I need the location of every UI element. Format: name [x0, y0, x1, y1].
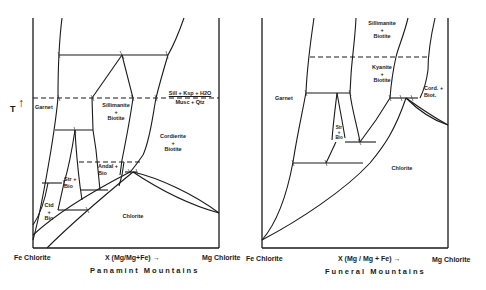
field-label-cord-biot: Cord. + Biot.: [424, 85, 454, 98]
garnet-boundary: [262, 18, 314, 240]
field-label-sill-bio: Sillimanite + Biotite: [358, 20, 406, 40]
chlorite-lens-lower: [133, 172, 219, 213]
field-label-chlorite: Chlorite: [382, 165, 422, 172]
up-arrow-icon: ↑: [18, 96, 24, 110]
funeral-diagram: [262, 18, 448, 248]
field-label-garnet: Garnet: [35, 104, 53, 111]
panel-title-panamint: Panamint Mountains: [90, 266, 199, 275]
reaction-label-products: Sill + Ksp + H2O: [160, 90, 220, 97]
field-label-ky-bio: Kyanite + Biotite: [358, 64, 406, 84]
x-axis-label: X (Mg/Mg+Fe) →: [105, 254, 160, 261]
temperature-axis-label: T: [10, 104, 16, 114]
field-label-garnet: Garnet: [275, 95, 293, 102]
x-left-label: Fe Chlorite: [246, 255, 283, 262]
panel-title-funeral: Funeral Mountains: [325, 267, 426, 276]
x-left-label: Fe Chlorite: [14, 254, 51, 261]
sill-diagonal: [92, 55, 122, 98]
reaction-label-reactants: Musc + Qtz: [165, 99, 215, 106]
str-bio-boundary: [326, 142, 336, 163]
field-label-cord-bio: Cordierite + Biotite: [150, 133, 196, 153]
field-label-str-bio: Str + Bio: [64, 176, 84, 189]
tieline-ticks: [292, 90, 413, 166]
field-label-chlorite: Chlorite: [113, 213, 153, 220]
phase-diagrams-svg: [0, 0, 486, 290]
chlorite-lens-upper: [133, 172, 219, 213]
field-label-sill-bio: Sillimanite + Biotite: [96, 102, 136, 122]
x-axis-label: X (Mg / Mg + Fe) →: [338, 255, 400, 262]
str-left-boundary: [58, 130, 75, 210]
field-label-ctd-bio: Ctd + Bio: [40, 202, 58, 222]
chlorite-lens-upper: [406, 98, 448, 125]
x-right-label: Mg Chlorite: [432, 256, 471, 263]
x-right-label: Mg Chlorite: [202, 254, 241, 261]
field-label-str-bio: Str + Bio: [333, 125, 345, 140]
str-right-boundary: [75, 130, 82, 200]
field-label-andal-bio: Andal + Bio: [98, 163, 124, 176]
chlorite-upper-boundary: [360, 98, 390, 142]
